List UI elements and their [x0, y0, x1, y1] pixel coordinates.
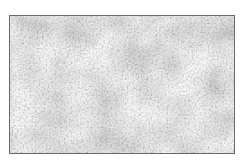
image-canvas	[0, 0, 243, 160]
texture-image	[10, 16, 234, 153]
texture-frame	[9, 15, 235, 154]
